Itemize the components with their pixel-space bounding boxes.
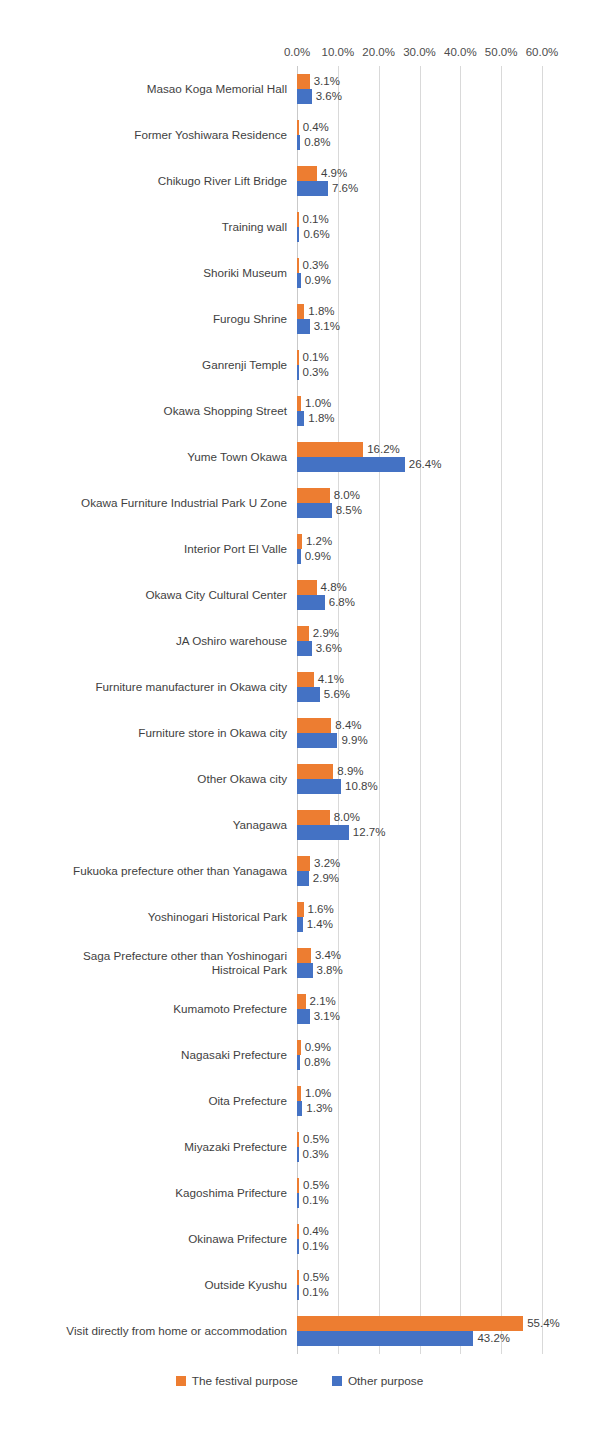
bar-track: 0.5% xyxy=(297,1270,599,1285)
bar-value-label: 1.2% xyxy=(306,533,332,549)
bar-value-label: 0.6% xyxy=(303,226,329,242)
bar-festival[interactable] xyxy=(297,534,302,549)
bar-track: 0.1% xyxy=(297,1239,599,1254)
bar-other[interactable] xyxy=(297,549,301,564)
bar-festival[interactable] xyxy=(297,1040,301,1055)
bar-festival[interactable] xyxy=(297,1316,523,1331)
bar-other[interactable] xyxy=(297,733,337,748)
bar-value-label: 55.4% xyxy=(527,1315,560,1331)
bar-value-label: 0.4% xyxy=(303,119,329,135)
bar-track: 0.4% xyxy=(297,120,599,135)
bar-other[interactable] xyxy=(297,319,310,334)
chart-row: Miyazaki Prefecture0.5%0.3% xyxy=(0,1124,599,1170)
bar-other[interactable] xyxy=(297,1239,299,1254)
bar-other[interactable] xyxy=(297,365,299,380)
bar-track: 10.8% xyxy=(297,779,599,794)
bar-festival[interactable] xyxy=(297,1224,299,1239)
bar-festival[interactable] xyxy=(297,580,317,595)
bar-festival[interactable] xyxy=(297,166,317,181)
chart-row: Outside Kyushu0.5%0.1% xyxy=(0,1262,599,1308)
chart-row: Oita Prefecture1.0%1.3% xyxy=(0,1078,599,1124)
bar-festival[interactable] xyxy=(297,258,299,273)
bar-festival[interactable] xyxy=(297,74,310,89)
bar-festival[interactable] xyxy=(297,718,331,733)
bar-value-label: 4.1% xyxy=(318,671,344,687)
bar-festival[interactable] xyxy=(297,902,304,917)
chart-rows: Masao Koga Memorial Hall3.1%3.6%Former Y… xyxy=(0,66,599,1354)
bar-other[interactable] xyxy=(297,917,303,932)
x-axis-tick-20: 20.0% xyxy=(362,44,395,60)
bar-festival[interactable] xyxy=(297,120,299,135)
bar-festival[interactable] xyxy=(297,396,301,411)
bar-other[interactable] xyxy=(297,595,325,610)
bar-other[interactable] xyxy=(297,1331,473,1346)
bar-other[interactable] xyxy=(297,273,301,288)
bar-pair: 0.3%0.9% xyxy=(297,258,599,288)
bar-track: 9.9% xyxy=(297,733,599,748)
bar-value-label: 2.1% xyxy=(310,993,336,1009)
bar-other[interactable] xyxy=(297,687,320,702)
bar-other[interactable] xyxy=(297,1009,310,1024)
bar-track: 0.1% xyxy=(297,212,599,227)
category-label: JA Oshiro warehouse xyxy=(37,623,287,659)
legend-item-other-purpose[interactable]: Other purpose xyxy=(332,1374,423,1388)
bar-festival[interactable] xyxy=(297,672,314,687)
category-label: Masao Koga Memorial Hall xyxy=(37,71,287,107)
bar-track: 0.1% xyxy=(297,350,599,365)
category-label: Fukuoka prefecture other than Yanagawa xyxy=(37,853,287,889)
bar-track: 2.9% xyxy=(297,626,599,641)
bar-other[interactable] xyxy=(297,1055,300,1070)
legend-item-festival-purpose[interactable]: The festival purpose xyxy=(176,1374,298,1388)
chart-row: Kumamoto Prefecture2.1%3.1% xyxy=(0,986,599,1032)
bar-other[interactable] xyxy=(297,135,300,150)
bar-other[interactable] xyxy=(297,89,312,104)
bar-festival[interactable] xyxy=(297,442,363,457)
bar-festival[interactable] xyxy=(297,350,299,365)
bar-festival[interactable] xyxy=(297,1086,301,1101)
bar-festival[interactable] xyxy=(297,764,333,779)
x-axis-tick-0: 0.0% xyxy=(284,44,310,60)
bar-value-label: 0.1% xyxy=(303,1192,329,1208)
bar-value-label: 0.5% xyxy=(303,1131,329,1147)
bar-other[interactable] xyxy=(297,825,349,840)
bar-other[interactable] xyxy=(297,779,341,794)
bar-festival[interactable] xyxy=(297,948,311,963)
bar-festival[interactable] xyxy=(297,212,299,227)
bar-other[interactable] xyxy=(297,181,328,196)
bar-track: 3.8% xyxy=(297,963,599,978)
bar-other[interactable] xyxy=(297,227,299,242)
bar-track: 3.6% xyxy=(297,641,599,656)
bar-other[interactable] xyxy=(297,457,405,472)
bar-other[interactable] xyxy=(297,871,309,886)
bar-track: 0.5% xyxy=(297,1132,599,1147)
chart-row: Kagoshima Prifecture0.5%0.1% xyxy=(0,1170,599,1216)
bar-value-label: 3.2% xyxy=(314,855,340,871)
bar-festival[interactable] xyxy=(297,994,306,1009)
bar-festival[interactable] xyxy=(297,304,304,319)
bar-festival[interactable] xyxy=(297,856,310,871)
bar-value-label: 3.8% xyxy=(317,962,343,978)
bar-value-label: 5.6% xyxy=(324,686,350,702)
bar-other[interactable] xyxy=(297,1101,302,1116)
bar-other[interactable] xyxy=(297,963,313,978)
bar-other[interactable] xyxy=(297,1193,299,1208)
bar-other[interactable] xyxy=(297,641,312,656)
category-label: Miyazaki Prefecture xyxy=(37,1129,287,1165)
bar-festival[interactable] xyxy=(297,488,330,503)
bar-other[interactable] xyxy=(297,503,332,518)
chart-row: Okawa Furniture Industrial Park U Zone8.… xyxy=(0,480,599,526)
bar-other[interactable] xyxy=(297,1285,299,1300)
bar-other[interactable] xyxy=(297,411,304,426)
bar-value-label: 1.4% xyxy=(307,916,333,932)
bar-value-label: 4.8% xyxy=(321,579,347,595)
bar-pair: 3.4%3.8% xyxy=(297,948,599,978)
bar-festival[interactable] xyxy=(297,810,330,825)
bar-festival[interactable] xyxy=(297,1178,299,1193)
bar-other[interactable] xyxy=(297,1147,299,1162)
bar-track: 43.2% xyxy=(297,1331,599,1346)
bar-value-label: 0.9% xyxy=(305,1039,331,1055)
bar-festival[interactable] xyxy=(297,1132,299,1147)
bar-festival[interactable] xyxy=(297,1270,299,1285)
x-axis-tick-10: 10.0% xyxy=(322,44,355,60)
bar-festival[interactable] xyxy=(297,626,309,641)
